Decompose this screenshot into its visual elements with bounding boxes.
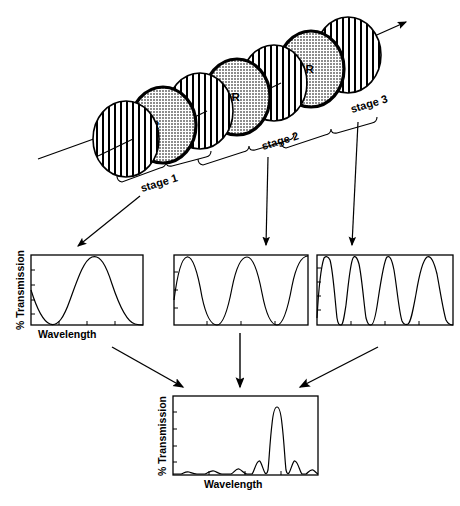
chart-1-xlabel: Wavelength bbox=[38, 328, 97, 340]
diagram-canvas: 4R 2R R bbox=[0, 0, 460, 506]
arrow-stage2-to-chart2 bbox=[266, 157, 268, 245]
arrow-stage1-to-chart1 bbox=[78, 196, 140, 246]
chart-stage-1: Wavelength % Transmission bbox=[14, 250, 143, 340]
arrow-chart1-to-combined bbox=[112, 347, 183, 387]
optical-element-polarizer-1 bbox=[93, 101, 159, 177]
stage-2-label: stage 2 bbox=[260, 129, 300, 152]
chart-combined-ylabel: % Transmission bbox=[156, 396, 168, 476]
stage-1-label: stage 1 bbox=[139, 171, 179, 194]
chart-to-combined-arrows bbox=[112, 333, 378, 387]
arrow-stage3-to-chart3 bbox=[352, 122, 358, 245]
arrow-chart3-to-combined bbox=[300, 347, 378, 387]
stage-3-label: stage 3 bbox=[349, 92, 389, 115]
filter-diagram-svg: 4R 2R R bbox=[0, 0, 460, 506]
chart-stage-3 bbox=[317, 255, 453, 325]
chart-combined: Wavelength % Transmission bbox=[156, 396, 318, 490]
optical-element-stack: 4R 2R R bbox=[93, 17, 381, 177]
chart-stage-2 bbox=[174, 255, 308, 325]
chart-combined-xlabel: Wavelength bbox=[204, 478, 263, 490]
chart-1-ylabel: % Transmission bbox=[14, 250, 26, 330]
